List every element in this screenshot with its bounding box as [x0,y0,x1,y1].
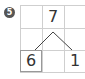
problem-number-badge: 5 [4,7,15,18]
whole-number: 7 [42,6,64,28]
part-number-left: 6 [20,50,42,72]
part-number-right: 1 [64,50,85,72]
number-bond-grid: 7 6 1 [20,5,85,73]
